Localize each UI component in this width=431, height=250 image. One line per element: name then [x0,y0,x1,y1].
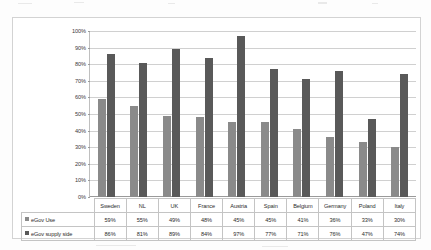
table-cell: 47% [351,227,383,241]
plot-area: 100%90%80%70%60%50%40%30%20%10%0% [89,31,416,197]
y-axis-tick-label: 30% [75,144,86,150]
bar [293,129,301,197]
bar [368,119,376,197]
scan-artifact-top-1 [18,3,32,4]
table-cell: 48% [190,213,222,227]
table-row: eGov supply side86%81%89%84%97%77%71%76%… [22,227,416,241]
table-header-row: SwedenNLUKFranceAustriaSpainBelgiumGerma… [22,199,416,213]
bar [326,137,334,197]
bar-group [90,31,123,197]
table-column-header: Spain [255,199,287,213]
table-cell: 49% [158,213,190,227]
table-cell: 71% [287,227,319,241]
bar [270,69,278,197]
table-cell: 55% [126,213,158,227]
bar-group [123,31,156,197]
bar [335,71,343,197]
bar [107,54,115,197]
y-axis-tick-label: 10% [75,177,86,183]
scan-artifact-bottom-2 [262,246,288,247]
table-cell: 76% [319,227,351,241]
scan-artifact-top-2 [74,2,84,3]
bar [205,58,213,197]
data-table: SwedenNLUKFranceAustriaSpainBelgiumGerma… [21,198,416,241]
table-column-header: Germany [319,199,351,213]
bar-group [253,31,286,197]
table-row: eGov Use59%55%49%48%45%45%41%36%33%30% [22,213,416,227]
y-axis-tick-label: 20% [75,161,86,167]
table-column-header: Austria [223,199,255,213]
y-axis-tick-label: 70% [75,78,86,84]
bar [302,79,310,197]
table-cell: 86% [94,227,126,241]
table-cell: 41% [287,213,319,227]
bar [237,36,245,197]
bar-group [351,31,384,197]
legend-label: eGov Use [31,217,55,223]
y-axis-tick-label: 50% [75,111,86,117]
y-axis-tick-label: 60% [75,94,86,100]
bar [172,49,180,197]
bar [130,106,138,197]
bar [359,142,367,197]
y-axis-tick-label: 90% [75,45,86,51]
legend-swatch-icon [25,217,29,221]
scan-artifact-bottom-1 [96,245,136,246]
scan-artifact-top-4 [318,2,327,4]
table-cell: 84% [190,227,222,241]
bar-group [220,31,253,197]
bar [400,74,408,197]
table-cell: 74% [383,227,415,241]
bar [139,63,147,197]
table-cell: 30% [383,213,415,227]
bar-group [188,31,221,197]
table-body: eGov Use59%55%49%48%45%45%41%36%33%30%eG… [22,213,416,241]
bar-group [383,31,416,197]
table-column-header: NL [126,199,158,213]
bar [98,99,106,197]
y-axis-tick-label: 80% [75,61,86,67]
table-column-header: Italy [383,199,415,213]
bar [261,122,269,197]
table-column-header: UK [158,199,190,213]
bar [163,116,171,197]
table-cell: 97% [223,227,255,241]
table-cell: 45% [223,213,255,227]
table-column-header: Belgium [287,199,319,213]
legend-item[interactable]: eGov supply side [22,227,95,241]
table-column-header: Poland [351,199,383,213]
table-corner-cell [22,199,95,213]
bar-group [318,31,351,197]
bar-group [286,31,319,197]
table-cell: 89% [158,227,190,241]
table-cell: 33% [351,213,383,227]
bars-layer [90,31,416,197]
table-column-header: France [190,199,222,213]
bar [228,122,236,197]
legend-item[interactable]: eGov Use [22,213,95,227]
legend-label: eGov supply side [31,231,72,237]
chart-frame: 100%90%80%70%60%50%40%30%20%10%0% Sweden… [12,17,421,239]
scan-artifact-top-3 [168,3,175,4]
table-cell: 81% [126,227,158,241]
table-cell: 45% [255,213,287,227]
legend-swatch-icon [25,231,29,235]
table-cell: 77% [255,227,287,241]
table-cell: 59% [94,213,126,227]
y-axis-tick-label: 100% [72,28,86,34]
bar [391,147,399,197]
table-cell: 36% [319,213,351,227]
bar-group [155,31,188,197]
table-column-header: Sweden [94,199,126,213]
bar [196,117,204,197]
y-axis-tick-label: 40% [75,128,86,134]
scan-artifact-top-5 [372,3,378,4]
